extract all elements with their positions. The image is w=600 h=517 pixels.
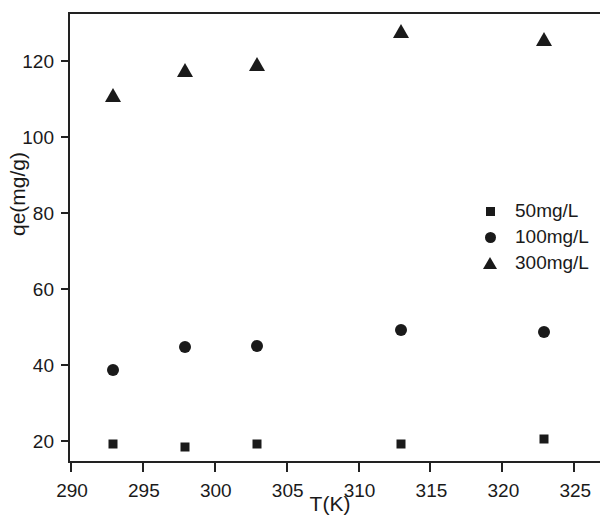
x-tick: 300 xyxy=(214,462,216,472)
square-icon xyxy=(486,207,495,216)
y-tick: 60 xyxy=(61,288,70,290)
data-point-square xyxy=(540,434,549,443)
data-point-triangle xyxy=(249,57,265,71)
data-point-triangle xyxy=(536,32,552,46)
data-point-circle xyxy=(107,364,119,376)
x-axis-title: T(K) xyxy=(0,492,600,516)
legend-row: 50mg/L xyxy=(478,198,589,224)
y-tick-label: 60 xyxy=(33,279,54,301)
y-tick-label: 80 xyxy=(33,203,54,225)
legend-marker-triangle xyxy=(478,257,502,269)
data-point-circle xyxy=(538,326,550,338)
legend-row: 300mg/L xyxy=(478,250,589,276)
legend: 50mg/L100mg/L300mg/L xyxy=(478,198,589,276)
y-tick: 80 xyxy=(61,212,70,214)
data-point-square xyxy=(252,439,261,448)
x-tick: 310 xyxy=(358,462,360,472)
legend-label: 300mg/L xyxy=(515,252,589,274)
y-tick-label: 120 xyxy=(22,51,54,73)
y-tick: 120 xyxy=(61,60,70,62)
data-point-circle xyxy=(179,341,191,353)
data-point-triangle xyxy=(105,88,121,102)
x-tick: 305 xyxy=(286,462,288,472)
data-point-circle xyxy=(395,324,407,336)
x-tick: 295 xyxy=(142,462,144,472)
data-point-triangle xyxy=(393,24,409,38)
y-tick: 40 xyxy=(61,364,70,366)
data-point-square xyxy=(109,440,118,449)
y-tick: 20 xyxy=(61,440,70,442)
data-point-square xyxy=(396,440,405,449)
circle-icon xyxy=(485,232,496,243)
legend-row: 100mg/L xyxy=(478,224,589,250)
x-tick: 315 xyxy=(429,462,431,472)
x-tick: 320 xyxy=(501,462,503,472)
legend-label: 100mg/L xyxy=(515,226,589,248)
data-point-square xyxy=(181,443,190,452)
data-point-circle xyxy=(251,340,263,352)
x-tick: 290 xyxy=(70,462,72,472)
legend-marker-square xyxy=(478,207,502,216)
x-tick: 325 xyxy=(573,462,575,472)
y-axis-title: qe(mg/g) xyxy=(6,74,30,314)
legend-marker-circle xyxy=(478,232,502,243)
y-tick-label: 20 xyxy=(33,431,54,453)
y-tick: 100 xyxy=(61,136,70,138)
scatter-plot-figure: 20406080100120 290295300305310315320325 … xyxy=(0,0,600,517)
legend-label: 50mg/L xyxy=(515,200,578,222)
data-point-triangle xyxy=(177,63,193,77)
y-tick-label: 40 xyxy=(33,355,54,377)
triangle-icon xyxy=(483,257,497,269)
